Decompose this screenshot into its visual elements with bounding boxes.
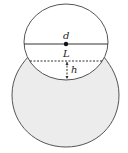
label-L: L bbox=[62, 48, 70, 59]
center-point bbox=[64, 42, 68, 46]
sphere-cap-diagram: d L h bbox=[0, 0, 128, 153]
label-d: d bbox=[63, 30, 69, 41]
label-h: h bbox=[71, 64, 77, 75]
